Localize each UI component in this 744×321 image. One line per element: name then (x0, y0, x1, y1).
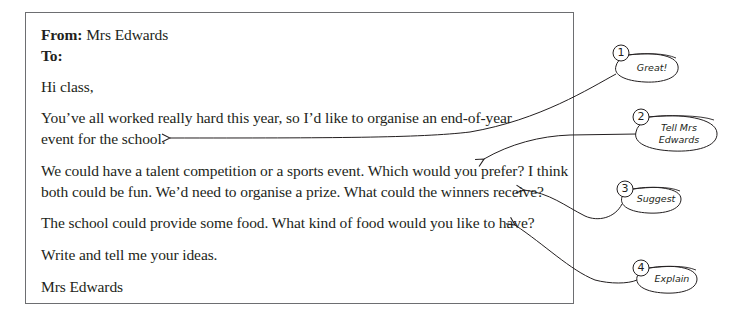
from-line: From: Mrs Edwards (41, 24, 168, 45)
from-label: From: (41, 26, 82, 43)
callout-2-label-line-1: Tell Mrs (651, 122, 707, 134)
callout-4-label: Explain (650, 273, 694, 285)
callout-2-number: 2 (632, 108, 650, 126)
callout-2-label-line-2: Edwards (651, 134, 707, 146)
callout-1-number: 1 (612, 44, 630, 62)
callout-3-label: Suggest (634, 193, 678, 205)
callout-1-label: Great! (632, 62, 672, 74)
greeting: Hi class, (41, 76, 93, 97)
paragraph-2-line-1: We could have a talent competition or a … (41, 160, 568, 181)
callout-4-number: 4 (632, 259, 650, 277)
paragraph-3-line-1: The school could provide some food. What… (41, 212, 535, 233)
paragraph-4-line-1: Write and tell me your ideas. (41, 244, 217, 265)
paragraph-1-line-1: You’ve all worked really hard this year,… (41, 107, 512, 128)
to-line: To: (41, 45, 63, 66)
to-label: To: (41, 47, 63, 64)
from-value: Mrs Edwards (86, 26, 168, 43)
callout-3-number: 3 (616, 180, 634, 198)
paragraph-1-line-2: event for the school. (41, 128, 165, 149)
paragraph-2-line-2: both could be fun. We’d need to organise… (41, 181, 544, 202)
signature: Mrs Edwards (41, 276, 123, 297)
